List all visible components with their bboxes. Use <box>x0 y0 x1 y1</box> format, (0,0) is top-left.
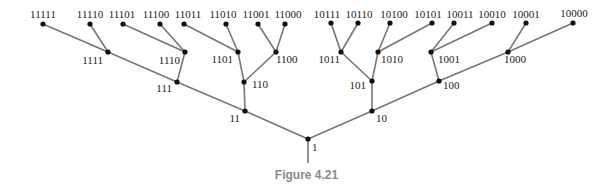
figure-caption: Figure 4.21 <box>0 168 613 182</box>
tree-node-label: 11010 <box>209 8 237 20</box>
tree-edge <box>378 23 432 52</box>
tree-node-label: 10011 <box>446 8 473 20</box>
tree-node-label: 1100 <box>276 53 298 65</box>
tree-node-dot <box>451 20 456 25</box>
tree-node-dot <box>305 136 310 141</box>
tree-node-label: 1111 <box>82 54 103 66</box>
tree-edge <box>431 23 454 52</box>
tree-node-dot <box>157 21 162 26</box>
tree-node-dot <box>436 78 441 83</box>
tree-node-label: 11000 <box>274 8 302 20</box>
tree-node-label: 1001 <box>438 53 460 65</box>
tree-node-dot <box>182 49 187 54</box>
tree-node-label: 10010 <box>478 8 506 20</box>
tree-node-dot <box>328 20 333 25</box>
tree-node-dot <box>369 78 374 83</box>
tree-edge <box>341 52 372 81</box>
tree-node-dot <box>242 108 247 113</box>
tree-node-label: 1000 <box>504 53 527 65</box>
tree-node-label: 1010 <box>381 53 404 65</box>
tree-node-dot <box>255 21 260 26</box>
tree-edge <box>372 81 439 111</box>
tree-node-label: 10000 <box>560 7 588 19</box>
tree-node-label: 11110 <box>77 8 104 20</box>
tree-node-label: 11100 <box>143 8 170 20</box>
tree-node-dot <box>375 49 380 54</box>
tree-node-dot <box>40 21 45 26</box>
tree-node-dot <box>241 79 246 84</box>
tree-node-label: 11011 <box>175 8 202 20</box>
tree-edge <box>378 23 390 52</box>
tree-edge <box>184 24 238 52</box>
tree-node-label: 10110 <box>345 8 373 20</box>
tree-edge <box>331 23 341 52</box>
tree-node-label: 11 <box>229 112 240 124</box>
tree-node-dot <box>570 20 575 25</box>
binary-tree-diagram: 1111011111010110011111110110111001011101… <box>0 0 613 187</box>
tree-edge <box>258 24 276 52</box>
tree-node-dot <box>181 21 186 26</box>
tree-node-dot <box>174 79 179 84</box>
tree-node-dot <box>523 20 528 25</box>
tree-edge <box>244 82 245 111</box>
tree-node-label: 1 <box>312 141 318 153</box>
tree-edge <box>372 52 378 81</box>
tree-node-dot <box>387 20 392 25</box>
tree-node-label: 11001 <box>242 8 269 20</box>
tree-node-label: 1101 <box>211 53 233 65</box>
tree-node-dot <box>428 49 433 54</box>
tree-node-dot <box>429 20 434 25</box>
tree-edge <box>177 82 245 111</box>
tree-node-dot <box>489 20 494 25</box>
tree-edge <box>123 24 185 52</box>
tree-node-label: 10001 <box>512 8 540 20</box>
tree-edge <box>238 52 244 82</box>
tree-node-dot <box>369 108 374 113</box>
tree-node-label: 10100 <box>380 8 408 20</box>
tree-node-dot <box>87 21 92 26</box>
tree-node-label: 100 <box>443 79 460 91</box>
tree-node-label: 110 <box>252 78 269 90</box>
tree-edge <box>226 24 238 52</box>
tree-edge <box>431 23 492 52</box>
tree-edge <box>308 111 372 139</box>
tree-node-dot <box>105 49 110 54</box>
tree-edge <box>276 24 285 52</box>
tree-node-dot <box>355 20 360 25</box>
tree-edge <box>160 24 185 52</box>
tree-node-label: 10101 <box>414 8 442 20</box>
tree-node-label: 10 <box>376 112 388 124</box>
tree-node-label: 101 <box>350 79 367 91</box>
tree-node-label: 1110 <box>159 54 181 66</box>
tree-edges <box>43 23 573 163</box>
tree-node-dot <box>120 21 125 26</box>
tree-labels: 1111011111010110011111110110111001011101… <box>30 7 588 153</box>
tree-node-label: 10111 <box>314 8 341 20</box>
tree-node-label: 111 <box>156 82 172 94</box>
tree-nodes <box>40 20 575 141</box>
tree-edge <box>341 23 358 52</box>
tree-node-label: 11111 <box>30 8 56 20</box>
tree-node-label: 1011 <box>318 53 340 65</box>
tree-node-dot <box>282 21 287 26</box>
tree-node-dot <box>235 49 240 54</box>
tree-edge <box>245 111 308 139</box>
tree-node-label: 11101 <box>109 8 136 20</box>
tree-node-dot <box>223 21 228 26</box>
